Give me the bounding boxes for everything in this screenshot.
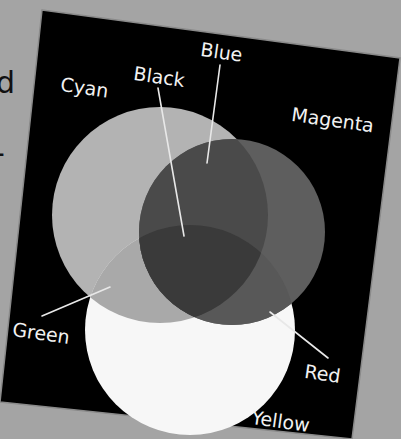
background-text-fragment-d: d bbox=[0, 68, 15, 98]
label-red: Red bbox=[303, 362, 341, 386]
background-text-fragment-dash: - bbox=[0, 138, 5, 168]
